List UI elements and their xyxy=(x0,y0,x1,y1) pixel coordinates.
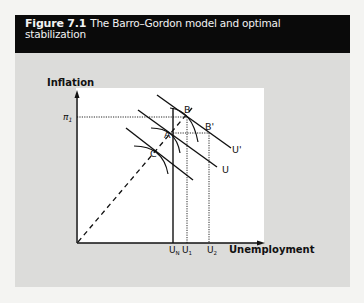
point-c-label: C xyxy=(150,148,157,159)
barro-gordon-diagram: Inflation π1 B B' A C U' U UN U1 U2 Unem… xyxy=(0,0,364,303)
point-b-prime-label: B' xyxy=(205,121,214,132)
x-axis-label: Unemployment xyxy=(229,244,315,255)
u2-label: U2 xyxy=(207,245,217,256)
y-axis-label: Inflation xyxy=(47,77,94,88)
pi1-label: π1 xyxy=(63,112,72,123)
u1-label: U1 xyxy=(182,245,192,256)
curve-u-prime-label: U' xyxy=(232,144,242,155)
point-a-label: A xyxy=(164,129,171,140)
point-b-label: B xyxy=(184,104,191,115)
plot-area xyxy=(76,88,264,243)
un-label: UN xyxy=(169,245,180,256)
curve-u-label: U xyxy=(222,164,229,175)
